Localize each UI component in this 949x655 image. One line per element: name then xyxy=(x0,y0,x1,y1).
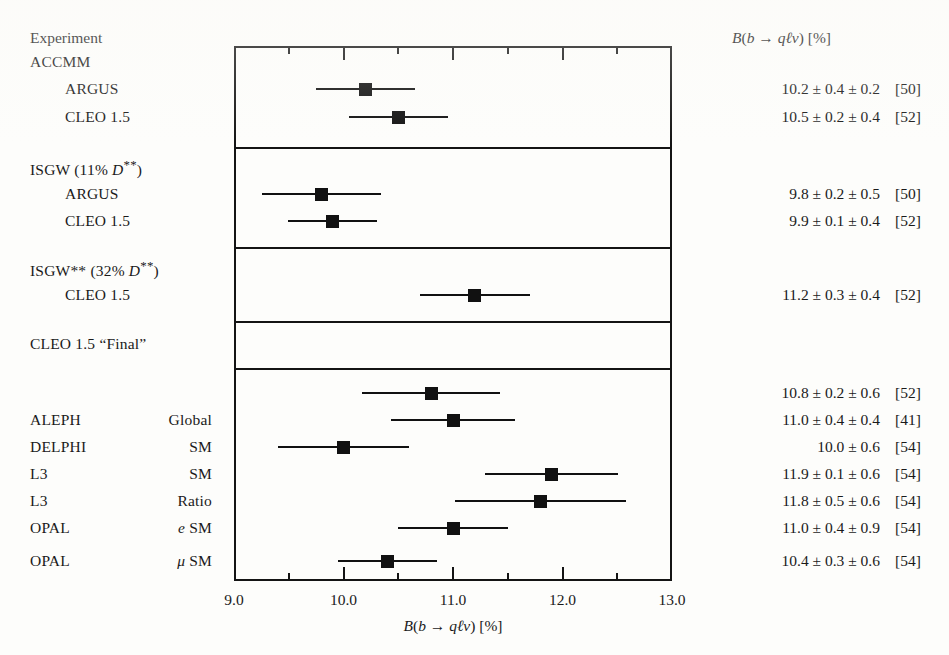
row-reference-argus-isgw: [50] xyxy=(895,186,921,202)
row-label-delphi-sm: ALEPH xyxy=(30,412,81,428)
row-qualifier-opal-mu: e SM xyxy=(130,520,212,536)
row-value-opal-e: 11.8 ± 0.5 ± 0.6 xyxy=(700,493,880,509)
row-value-cleo-isgw: 9.9 ± 0.1 ± 0.4 xyxy=(700,213,880,229)
row-label-argus-isgw: ARGUS xyxy=(65,186,119,202)
row-reference-cleo-accmm: [52] xyxy=(895,109,921,125)
group-label-isgw-group: ISGW (11% D**) xyxy=(30,159,142,178)
row-label-argus-accmm: ARGUS xyxy=(65,81,119,97)
row-reference-opal-e: [54] xyxy=(895,493,921,509)
section-divider xyxy=(234,321,672,323)
row-value-aleph-global: 10.8 ± 0.2 ± 0.6 xyxy=(700,385,880,401)
data-marker-l3-ratio xyxy=(545,468,558,481)
x-tick-label: 10.0 xyxy=(330,592,357,608)
data-marker-argus-accmm xyxy=(359,83,372,96)
row-reference-lep-average: [54] xyxy=(895,553,921,569)
axis-tick xyxy=(288,573,290,581)
data-marker-cleo-accmm xyxy=(392,111,405,124)
data-marker-cleo-isgw xyxy=(326,215,339,228)
x-tick-label: 12.0 xyxy=(549,592,576,608)
d-star-star-symbol: D xyxy=(112,161,123,178)
row-label-lep-average: OPAL xyxy=(30,553,70,569)
row-label-opal-e: L3 xyxy=(30,493,48,509)
row-label-cleo-accmm: CLEO 1.5 xyxy=(65,109,130,125)
row-value-argus-isgw: 9.8 ± 0.2 ± 0.5 xyxy=(700,186,880,202)
section-divider xyxy=(234,368,672,370)
d-star-star-symbol: D xyxy=(129,262,140,279)
row-value-cleo-accmm: 10.5 ± 0.2 ± 0.4 xyxy=(700,109,880,125)
row-reference-opal-mu: [54] xyxy=(895,520,921,536)
data-marker-opal-mu xyxy=(447,522,460,535)
row-value-delphi-sm: 11.0 ± 0.4 ± 0.4 xyxy=(700,412,880,428)
axis-tick xyxy=(507,46,509,54)
row-qualifier-lep-average: μ SM xyxy=(130,553,212,569)
axis-tick xyxy=(452,46,454,60)
row-value-argus-accmm: 10.2 ± 0.4 ± 0.2 xyxy=(700,81,880,97)
data-marker-cleo-isgw2 xyxy=(468,289,481,302)
row-reference-cleo-isgw: [52] xyxy=(895,213,921,229)
row-label-opal-mu: OPAL xyxy=(30,520,70,536)
row-qualifier-l3-ratio: SM xyxy=(130,466,212,482)
row-reference-l3-ratio: [54] xyxy=(895,466,921,482)
group-label-isgw2-group: ISGW** (32% D**) xyxy=(30,260,159,279)
x-tick-label: 9.0 xyxy=(224,592,243,608)
group-label-cleo-final: CLEO 1.5 “Final” xyxy=(30,336,146,352)
row-reference-cleo-isgw2: [52] xyxy=(895,287,921,303)
data-marker-opal-e xyxy=(534,495,547,508)
data-marker-l3-sm xyxy=(337,441,350,454)
row-value-opal-mu: 11.0 ± 0.4 ± 0.9 xyxy=(700,520,880,536)
x-axis-title: B(b → qℓν) [%] xyxy=(403,618,502,634)
row-label-cleo-isgw: CLEO 1.5 xyxy=(65,213,130,229)
row-value-l3-sm: 10.0 ± 0.6 xyxy=(700,439,880,455)
x-tick-label: 13.0 xyxy=(658,592,685,608)
axis-tick xyxy=(397,573,399,581)
row-reference-l3-sm: [54] xyxy=(895,439,921,455)
axis-tick xyxy=(343,567,345,581)
row-qualifier-opal-e: Ratio xyxy=(130,493,212,509)
x-tick-label: 11.0 xyxy=(440,592,467,608)
section-divider xyxy=(234,247,672,249)
axis-tick xyxy=(343,46,345,60)
axis-tick xyxy=(507,573,509,581)
row-value-cleo-isgw2: 11.2 ± 0.3 ± 0.4 xyxy=(700,287,880,303)
axis-tick xyxy=(562,46,564,60)
data-marker-delphi-sm xyxy=(447,414,460,427)
row-label-cleo-isgw2: CLEO 1.5 xyxy=(65,287,130,303)
data-marker-lep-average xyxy=(381,555,394,568)
row-qualifier-delphi-sm: Global xyxy=(130,412,212,428)
axis-tick xyxy=(562,567,564,581)
group-label-accmm-group: ACCMM xyxy=(30,54,90,70)
forest-plot-figure: Experiment B(b → qℓν) [%] ACCMMARGUSCLEO… xyxy=(0,0,949,655)
column-header-experiment: Experiment xyxy=(30,30,102,46)
row-reference-argus-accmm: [50] xyxy=(895,81,921,97)
row-value-l3-ratio: 11.9 ± 0.1 ± 0.6 xyxy=(700,466,880,482)
axis-tick xyxy=(397,46,399,54)
data-marker-aleph-global xyxy=(425,387,438,400)
column-header-branching-ratio: B(b → qℓν) [%] xyxy=(732,30,831,46)
section-divider xyxy=(234,147,672,149)
axis-tick xyxy=(288,46,290,54)
row-value-lep-average: 10.4 ± 0.3 ± 0.6 xyxy=(700,553,880,569)
row-qualifier-l3-sm: SM xyxy=(130,439,212,455)
axis-tick xyxy=(616,573,618,581)
row-reference-aleph-global: [52] xyxy=(895,385,921,401)
data-marker-argus-isgw xyxy=(315,188,328,201)
row-label-l3-ratio: L3 xyxy=(30,466,48,482)
row-reference-delphi-sm: [41] xyxy=(895,412,921,428)
axis-tick xyxy=(452,567,454,581)
axis-tick xyxy=(616,46,618,54)
row-label-l3-sm: DELPHI xyxy=(30,439,86,455)
